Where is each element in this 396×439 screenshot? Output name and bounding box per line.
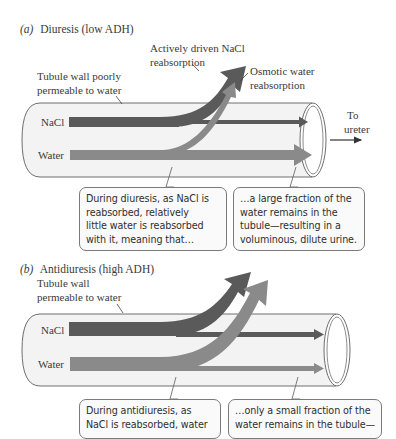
wall-label-a: Tubule wall poorly permeable to water [37,70,124,96]
nacl-row-label-b: NaCl [41,324,64,336]
callout-line: …only a small fraction of the [235,404,375,418]
callout-line: with it, meaning that… [86,233,220,247]
callout-antidiuresis-right: …only a small fraction of the water rema… [228,399,382,439]
callout-diuresis-left: During diuresis, as NaCl is reabsorbed, … [79,187,227,251]
panel-b-title: (b) Antidiuresis (high ADH) [20,263,154,276]
callout-line: water remains in the tubule— [235,418,375,432]
tubule-a [22,103,326,177]
callout-line: voluminous, dilute urine. [240,233,358,247]
nacl-reabsorption-label: Actively driven NaCl reabsorption [150,42,247,68]
to-ureter-label: To ureter [344,109,370,135]
callout-line: During diuresis, as NaCl is [86,192,220,206]
callout-line: reabsorbed, relatively [86,206,220,220]
water-row-label-b: Water [38,358,64,370]
callout-antidiuresis-left: During antidiuresis, as NaCl is reabsorb… [79,399,221,439]
wall-leader-b [117,304,123,313]
callout-line: During antidiuresis, as [86,404,214,418]
wall-label-b: Tubule wall permeable to water [37,277,122,303]
callout-line: NaCl is reabsorbed, water [86,418,214,432]
callout-line: water remains in the [240,206,358,220]
nacl-row-label-a: NaCl [41,116,64,128]
panel-a: (a) Diuresis (low ADH) [20,23,370,187]
panel-a-title: (a) Diuresis (low ADH) [20,23,134,36]
callout-line: …a large fraction of the [240,192,358,206]
water-row-label-a: Water [38,149,64,161]
panel-b: (b) Antidiuresis (high ADH) [20,263,350,399]
callout-line: tubule—resulting in a [240,219,358,233]
callout-diuresis-right: …a large fraction of the water remains i… [233,187,365,251]
water-reabsorption-label: Osmotic water reabsorption [250,65,317,91]
callout-line: little water is reabsorbed [86,219,220,233]
